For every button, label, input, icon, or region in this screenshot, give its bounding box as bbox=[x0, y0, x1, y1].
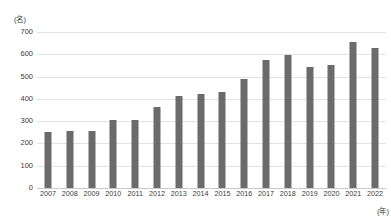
x-axis-tick-label: 2016 bbox=[236, 190, 252, 197]
x-axis-tick-label: 2013 bbox=[171, 190, 187, 197]
bar bbox=[306, 67, 313, 188]
bar-slot bbox=[299, 32, 321, 188]
bar bbox=[263, 60, 270, 188]
bar-slot bbox=[81, 32, 103, 188]
y-axis-tick-label: 400 bbox=[20, 95, 33, 103]
x-axis-tick-label: 2017 bbox=[258, 190, 274, 197]
bar bbox=[153, 107, 160, 188]
x-axis-tick-label: 2019 bbox=[302, 190, 318, 197]
bar-slot bbox=[277, 32, 299, 188]
bar bbox=[241, 79, 248, 188]
x-axis-tick-label: 2009 bbox=[84, 190, 100, 197]
bar bbox=[350, 42, 357, 188]
bar bbox=[175, 96, 182, 188]
plot-area: 0100200300400500600700 bbox=[37, 32, 386, 188]
x-axis-tick-label: 2020 bbox=[323, 190, 339, 197]
bar-slot bbox=[212, 32, 234, 188]
bar-slot bbox=[102, 32, 124, 188]
y-axis-tick-label: 300 bbox=[20, 117, 33, 125]
x-axis-tick-label: 2007 bbox=[40, 190, 56, 197]
bar-slot bbox=[190, 32, 212, 188]
bar-slot bbox=[364, 32, 386, 188]
y-axis-unit-label: (名) bbox=[14, 13, 26, 24]
x-axis-tick-label: 2008 bbox=[62, 190, 78, 197]
bar-slot bbox=[255, 32, 277, 188]
x-axis-unit-label: (年) bbox=[377, 205, 389, 216]
x-axis-tick-label: 2014 bbox=[193, 190, 209, 197]
x-axis-tick-label: 2018 bbox=[280, 190, 296, 197]
y-axis-tick-label: 200 bbox=[20, 140, 33, 148]
y-axis-tick-label: 0 bbox=[29, 184, 33, 192]
x-axis-tick-label: 2022 bbox=[367, 190, 383, 197]
bar bbox=[284, 55, 291, 188]
bar-slot bbox=[59, 32, 81, 188]
bar-chart: (名) 0100200300400500600700 2007200820092… bbox=[0, 0, 391, 220]
bar bbox=[132, 120, 139, 188]
bar-slot bbox=[124, 32, 146, 188]
bar bbox=[44, 132, 51, 188]
x-axis-tick-label: 2021 bbox=[345, 190, 361, 197]
y-axis-tick-label: 700 bbox=[20, 28, 33, 36]
bar-slot bbox=[342, 32, 364, 188]
bar-slot bbox=[37, 32, 59, 188]
x-axis-tick-label: 2015 bbox=[214, 190, 230, 197]
bar-slot bbox=[233, 32, 255, 188]
bar-slot bbox=[168, 32, 190, 188]
y-axis-tick-label: 100 bbox=[20, 162, 33, 170]
bar bbox=[328, 65, 335, 188]
bar bbox=[372, 48, 379, 188]
bar bbox=[219, 92, 226, 188]
x-axis-tick-label: 2012 bbox=[149, 190, 165, 197]
y-axis-tick-label: 600 bbox=[20, 51, 33, 59]
bar-slot bbox=[321, 32, 343, 188]
bar-slot bbox=[146, 32, 168, 188]
bar bbox=[197, 94, 204, 188]
bar-series bbox=[37, 32, 386, 188]
bar bbox=[110, 120, 117, 188]
bar bbox=[66, 131, 73, 188]
x-axis-tick-label: 2011 bbox=[127, 190, 142, 197]
bar bbox=[88, 131, 95, 188]
y-axis-tick-label: 500 bbox=[20, 73, 33, 81]
x-axis-tick-label: 2010 bbox=[105, 190, 121, 197]
